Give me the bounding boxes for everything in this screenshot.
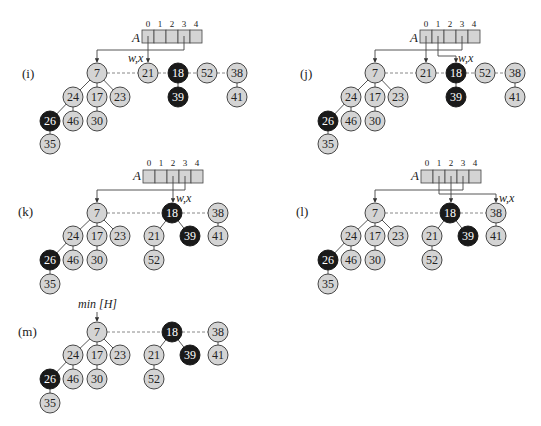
node: 41 [208, 226, 228, 246]
svg-text:39: 39 [462, 229, 474, 243]
node: 52 [144, 250, 164, 270]
min-label: min [H] [78, 297, 117, 311]
node: 23 [110, 226, 130, 246]
svg-text:17: 17 [91, 90, 103, 104]
node: 24 [341, 87, 361, 107]
svg-text:26: 26 [44, 372, 56, 386]
svg-text:17: 17 [369, 229, 381, 243]
array-label: A [410, 168, 419, 183]
node: 30 [87, 111, 107, 131]
wx-label: w,x [128, 51, 144, 65]
node: 35 [40, 134, 60, 154]
svg-text:26: 26 [322, 253, 334, 267]
svg-text:21: 21 [420, 66, 432, 80]
node: 46 [341, 250, 361, 270]
array-index: 0 [146, 19, 151, 29]
array-index: 1 [159, 158, 164, 168]
node: 17 [87, 226, 107, 246]
node: 24 [63, 87, 83, 107]
node: 39 [180, 345, 200, 365]
node: 18 [168, 63, 188, 83]
node: 35 [40, 393, 60, 413]
node: 30 [87, 250, 107, 270]
node: 38 [208, 203, 228, 223]
svg-text:17: 17 [91, 229, 103, 243]
svg-text:23: 23 [114, 348, 126, 362]
array-index: 0 [147, 158, 152, 168]
array-index: 2 [171, 158, 176, 168]
svg-text:46: 46 [67, 114, 79, 128]
array-a: A 0 1 2 3 4 [409, 19, 480, 45]
svg-text:18: 18 [166, 325, 178, 339]
node: 46 [341, 111, 361, 131]
svg-text:7: 7 [94, 206, 100, 220]
svg-text:21: 21 [142, 66, 154, 80]
svg-text:24: 24 [67, 90, 79, 104]
array-index: 2 [449, 158, 454, 168]
svg-text:41: 41 [231, 90, 243, 104]
array-label: A [409, 30, 418, 45]
svg-text:41: 41 [509, 90, 521, 104]
panel-j: (j) A 0 1 2 3 4 w,x 7 21 18 52 38 24 17 … [300, 19, 525, 154]
node: 52 [422, 250, 442, 270]
svg-text:39: 39 [184, 348, 196, 362]
node: 46 [63, 250, 83, 270]
node: 26 [318, 250, 338, 270]
panel-label: (j) [300, 66, 312, 81]
node: 7 [87, 203, 107, 223]
array-index: 3 [183, 158, 188, 168]
svg-text:41: 41 [490, 229, 502, 243]
node: 39 [458, 226, 478, 246]
node: 7 [87, 63, 107, 83]
svg-text:52: 52 [148, 253, 160, 267]
panel-label: (i) [22, 66, 34, 81]
node: 21 [138, 63, 158, 83]
node: 35 [318, 134, 338, 154]
svg-text:39: 39 [450, 90, 462, 104]
svg-text:38: 38 [231, 66, 243, 80]
node: 24 [63, 345, 83, 365]
svg-text:30: 30 [91, 253, 103, 267]
wx-label: w,x [176, 191, 192, 205]
node: 24 [63, 226, 83, 246]
svg-text:18: 18 [444, 206, 456, 220]
array-index: 4 [473, 158, 478, 168]
array-a: A 0 1 2 3 4 [131, 19, 202, 45]
node: 39 [446, 87, 466, 107]
svg-text:24: 24 [67, 348, 79, 362]
node: 30 [365, 250, 385, 270]
node: 26 [40, 369, 60, 389]
svg-text:23: 23 [114, 229, 126, 243]
node: 30 [365, 111, 385, 131]
array-index: 4 [195, 158, 200, 168]
svg-text:39: 39 [172, 90, 184, 104]
svg-text:46: 46 [345, 114, 357, 128]
array-a: A 0 1 2 3 4 [410, 158, 481, 183]
svg-text:35: 35 [44, 396, 56, 410]
svg-text:35: 35 [322, 137, 334, 151]
svg-text:30: 30 [91, 114, 103, 128]
node: 21 [422, 226, 442, 246]
node: 26 [318, 111, 338, 131]
svg-text:21: 21 [426, 229, 438, 243]
node: 30 [87, 369, 107, 389]
svg-text:7: 7 [94, 325, 100, 339]
node: 18 [446, 63, 466, 83]
svg-text:30: 30 [369, 114, 381, 128]
panel-k: (k) A 0 1 2 3 4 w,x 7 18 38 24 17 23 26 … [18, 158, 228, 294]
node: 17 [365, 87, 385, 107]
node: 35 [318, 274, 338, 294]
node: 46 [63, 369, 83, 389]
array-index: 1 [436, 19, 441, 29]
svg-text:35: 35 [44, 137, 56, 151]
svg-text:23: 23 [392, 90, 404, 104]
node: 7 [365, 63, 385, 83]
svg-text:52: 52 [426, 253, 438, 267]
node: 41 [486, 226, 506, 246]
svg-text:23: 23 [114, 90, 126, 104]
svg-text:52: 52 [479, 66, 491, 80]
node: 23 [388, 87, 408, 107]
array-a: A 0 1 2 3 4 [132, 158, 203, 183]
svg-text:17: 17 [91, 348, 103, 362]
node: 46 [63, 111, 83, 131]
